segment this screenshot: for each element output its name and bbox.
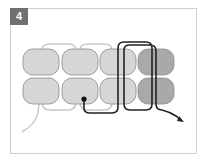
bead (62, 78, 98, 104)
bead (23, 78, 59, 104)
beading-diagram (0, 0, 203, 160)
bead (62, 49, 98, 75)
bead (23, 49, 59, 75)
start-dot (81, 96, 86, 101)
